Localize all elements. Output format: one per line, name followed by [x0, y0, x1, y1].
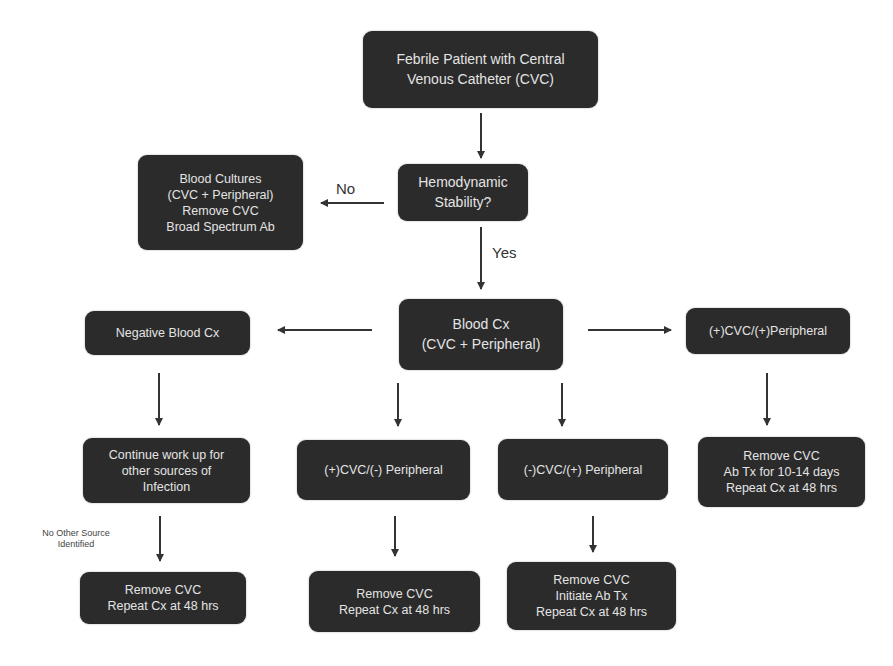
node-text: Remove CVC: [553, 572, 629, 588]
node-pos-cvc-neg-peripheral: (+)CVC/(-) Peripheral: [297, 440, 470, 500]
node-text: Febrile Patient with Central: [396, 50, 564, 70]
edge-label-no: No: [336, 180, 355, 197]
node-continue-workup: Continue work up for other sources of In…: [83, 438, 250, 503]
node-hemodynamic-stability: Hemodynamic Stability?: [398, 164, 528, 221]
node-neg-pos-action: Remove CVC Initiate Ab Tx Repeat Cx at 4…: [507, 562, 676, 630]
node-text: Venous Catheter (CVC): [407, 70, 554, 90]
node-text: (-)CVC/(+) Peripheral: [524, 462, 642, 478]
node-text: Initiate Ab Tx: [555, 588, 627, 604]
node-text: Remove CVC: [125, 582, 201, 598]
node-neg-cvc-pos-peripheral: (-)CVC/(+) Peripheral: [498, 439, 668, 500]
node-text: (+)CVC/(-) Peripheral: [324, 462, 442, 478]
node-text: Infection: [143, 479, 190, 495]
node-text: Broad Spectrum Ab: [166, 219, 274, 235]
node-negative-blood-cx: Negative Blood Cx: [85, 311, 250, 355]
node-text: Continue work up for: [109, 447, 224, 463]
node-text: Repeat Cx at 48 hrs: [107, 598, 218, 614]
node-text: Remove CVC: [356, 586, 432, 602]
node-text: Blood Cultures: [180, 171, 262, 187]
node-workup-action: Remove CVC Repeat Cx at 48 hrs: [80, 572, 246, 624]
node-pos-neg-action: Remove CVC Repeat Cx at 48 hrs: [309, 571, 480, 632]
note-text: No Other Source: [20, 528, 132, 539]
node-text: (CVC + Peripheral): [422, 335, 541, 355]
node-text: Remove CVC: [743, 448, 819, 464]
edge-label-yes: Yes: [492, 244, 516, 261]
node-unstable-action: Blood Cultures (CVC + Peripheral) Remove…: [138, 155, 303, 250]
node-text: Repeat Cx at 48 hrs: [339, 602, 450, 618]
node-text: Negative Blood Cx: [116, 325, 220, 341]
node-blood-cx: Blood Cx (CVC + Peripheral): [399, 299, 563, 370]
node-text: Repeat Cx at 48 hrs: [726, 480, 837, 496]
node-text: Repeat Cx at 48 hrs: [536, 604, 647, 620]
edge-label-no-other-source: No Other Source Identified: [20, 528, 132, 551]
node-start: Febrile Patient with Central Venous Cath…: [363, 31, 598, 108]
node-pos-pos-action: Remove CVC Ab Tx for 10-14 days Repeat C…: [698, 437, 865, 507]
node-text: Stability?: [435, 193, 492, 213]
node-text: (CVC + Peripheral): [168, 187, 274, 203]
note-text: Identified: [20, 539, 132, 550]
node-text: Ab Tx for 10-14 days: [724, 464, 840, 480]
node-text: Remove CVC: [182, 203, 258, 219]
node-text: (+)CVC/(+)Peripheral: [709, 323, 827, 339]
node-text: Blood Cx: [453, 315, 510, 335]
node-text: other sources of: [122, 463, 212, 479]
node-pos-cvc-pos-peripheral: (+)CVC/(+)Peripheral: [686, 308, 850, 354]
node-text: Hemodynamic: [418, 173, 507, 193]
